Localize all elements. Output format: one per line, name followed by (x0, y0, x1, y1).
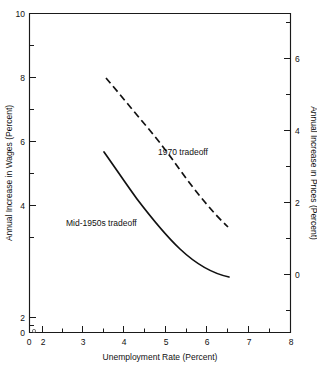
chart-svg: 10 8 6 4 2 0 6 4 2 0 (0, 0, 317, 370)
y-axis-title-right: Annual Increase in Prices (Percent) (309, 106, 317, 240)
bottom-axis-label-0: 0 (27, 337, 32, 347)
bottom-axis-label-6: 6 (205, 337, 210, 347)
bottom-axis-label-4: 4 (122, 337, 127, 347)
y-axis-title-left: Annual Increase in Wages (Percent) (4, 105, 14, 241)
right-axis-label-2: 2 (295, 198, 300, 208)
bottom-axis-label-8: 8 (289, 337, 294, 347)
left-axis-label-0: 0 (20, 328, 25, 338)
right-axis-label-0: 0 (295, 270, 300, 280)
left-axis-label-8: 8 (20, 73, 25, 83)
bottom-axis-label-2: 2 (41, 337, 46, 347)
left-axis-label-4: 4 (20, 201, 25, 211)
left-axis-label-10: 10 (16, 9, 26, 19)
curve-label-mid1950s: Mid-1950s tradeoff (66, 218, 137, 228)
phillips-curve-chart: 10 8 6 4 2 0 6 4 2 0 (0, 0, 317, 370)
curve-label-1970: 1970 tradeoff (158, 147, 209, 157)
right-axis-label-6: 6 (295, 54, 300, 64)
bottom-axis-label-5: 5 (164, 337, 169, 347)
right-axis-label-4: 4 (295, 126, 300, 136)
bottom-axis-label-3: 3 (81, 337, 86, 347)
bottom-axis-label-7: 7 (247, 337, 252, 347)
left-axis-label-6: 6 (20, 137, 25, 147)
left-axis-label-2: 2 (20, 313, 25, 323)
x-axis-title: Unemployment Rate (Percent) (103, 352, 218, 362)
chart-background (0, 0, 317, 370)
